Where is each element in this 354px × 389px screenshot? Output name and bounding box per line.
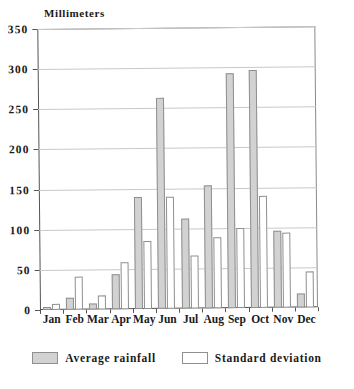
bar-average-rainfall-feb [66,298,74,310]
chart-legend: Average rainfallStandard deviation [0,352,354,364]
x-tick-oct [248,308,249,312]
bar-standard-deviation-oct [259,196,268,308]
bar-standard-deviation-feb [74,277,82,310]
y-tick-label-50: 50 [17,264,31,276]
bar-average-rainfall-apr [112,275,120,310]
bar-group-sep [225,27,251,308]
bar-group-feb [63,29,89,310]
bar-standard-deviation-may [143,241,152,309]
bar-average-rainfall-jul [181,219,190,309]
bar-standard-deviation-apr [121,262,129,309]
bar-average-rainfall-mar [89,304,97,310]
bar-average-rainfall-oct [249,70,259,308]
x-axis-label-jan: Jan [43,313,61,325]
x-axis-label-feb: Feb [65,313,84,325]
y-tick-label-250: 250 [8,103,29,115]
y-tick-label-200: 200 [9,144,30,156]
bar-group-jun [156,28,182,309]
bar-group-jan [40,29,66,310]
legend-swatch-average-rainfall [32,352,58,364]
y-axis-unit-title: Millimeters [44,7,105,19]
x-axis-label-oct: Oct [251,313,269,325]
x-tick-dec [295,308,296,312]
x-tick-nov [272,308,273,312]
bar-group-oct [248,27,274,308]
y-tick-label-150: 150 [9,184,30,196]
legend-swatch-standard-deviation [182,352,208,364]
bar-group-may [132,28,158,309]
x-axis-label-sep: Sep [228,313,246,325]
x-axis-label-dec: Dec [297,313,316,325]
bar-standard-deviation-aug [213,238,222,309]
y-tick-label-350: 350 [8,23,29,35]
legend-item-standard-deviation: Standard deviation [182,352,322,364]
bar-average-rainfall-dec [297,293,305,308]
legend-item-average-rainfall: Average rainfall [32,352,156,364]
bar-average-rainfall-jun [156,98,166,309]
bars-layer [37,26,318,310]
bar-group-mar [86,28,112,309]
x-tick-sep [225,308,226,312]
bar-group-apr [109,28,135,309]
bar-standard-deviation-jun [166,197,175,309]
bar-average-rainfall-aug [203,186,212,309]
x-axis-label-jul: Jul [183,313,198,325]
y-tick-label-300: 300 [8,63,29,75]
bar-average-rainfall-nov [273,231,282,308]
x-axis-label-apr: Apr [111,313,131,325]
rainfall-bar-chart: Millimeters 050100150200250300350 JanFeb… [0,0,354,389]
legend-label-standard-deviation: Standard deviation [215,352,322,364]
x-axis-label-jun: Jun [158,313,177,325]
bar-average-rainfall-sep [226,73,236,308]
x-axis-label-aug: Aug [204,313,224,325]
x-tick-end [318,307,319,311]
bar-average-rainfall-may [134,197,143,309]
x-tick-aug [202,308,203,312]
x-axis-label-may: May [133,313,155,325]
legend-label-average-rainfall: Average rainfall [65,352,156,364]
x-axis-label-nov: Nov [273,313,293,325]
bar-standard-deviation-dec [306,271,314,307]
x-axis-label-mar: Mar [87,313,109,325]
bar-standard-deviation-mar [98,295,106,310]
y-tick-label-0: 0 [24,304,31,316]
bar-group-dec [295,26,321,307]
bar-average-rainfall-jan [42,307,50,310]
bar-standard-deviation-sep [236,228,245,308]
y-tick-label-100: 100 [10,224,31,236]
bar-group-jul [179,27,205,308]
bar-standard-deviation-jul [190,255,199,308]
bar-group-aug [202,27,228,308]
bar-standard-deviation-nov [282,232,291,308]
bar-group-nov [271,27,297,308]
bar-standard-deviation-jan [51,303,59,309]
x-axis-labels: JanFebMarAprMayJunJulAugSepOctNovDec [40,313,318,331]
plot-area: 050100150200250300350 [40,29,318,310]
